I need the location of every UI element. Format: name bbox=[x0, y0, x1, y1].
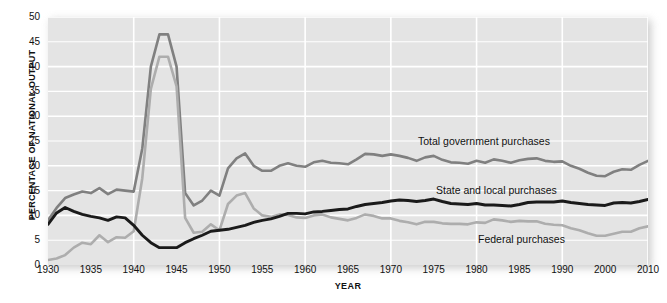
x-axis-tick-label: 1965 bbox=[326, 265, 370, 275]
plot-area bbox=[48, 17, 648, 265]
x-axis-tick-label: 1970 bbox=[369, 265, 413, 275]
series-annotation-label: Total government purchases bbox=[418, 135, 550, 147]
x-axis-tick-label: 1945 bbox=[155, 265, 199, 275]
y-axis-tick-label: 10 bbox=[12, 210, 40, 220]
y-axis-tick-label: 50 bbox=[12, 12, 40, 22]
x-axis-tick-label: 1940 bbox=[112, 265, 156, 275]
x-axis-tick-label: 1930 bbox=[26, 265, 70, 275]
x-axis-tick-label: 1955 bbox=[240, 265, 284, 275]
x-axis-tick-label: 2010 bbox=[626, 265, 667, 275]
y-axis-tick-label: 20 bbox=[12, 161, 40, 171]
x-axis-tick-label: 1960 bbox=[283, 265, 327, 275]
y-axis-tick-label: 15 bbox=[12, 186, 40, 196]
series-annotation-label: Federal purchases bbox=[478, 233, 565, 245]
y-axis-tick-label: 35 bbox=[12, 86, 40, 96]
x-axis-title: YEAR bbox=[48, 281, 648, 291]
y-axis-tick-label: 45 bbox=[12, 37, 40, 47]
y-axis-tick-label: 25 bbox=[12, 136, 40, 146]
series-annotation-label: State and local purchases bbox=[436, 184, 557, 196]
x-axis-tick-label: 1950 bbox=[197, 265, 241, 275]
x-axis-tick-label: 1975 bbox=[412, 265, 456, 275]
x-axis-tick-label: 1990 bbox=[540, 265, 584, 275]
x-axis-tick-label: 1935 bbox=[69, 265, 113, 275]
x-axis-tick-label: 1980 bbox=[455, 265, 499, 275]
y-axis-tick-label: 40 bbox=[12, 62, 40, 72]
x-axis-tick-label: 2000 bbox=[583, 265, 627, 275]
x-axis-tick-label: 1985 bbox=[497, 265, 541, 275]
chart-container: PERCENTAGE OF NATIONAL OUTPUT 0510152025… bbox=[0, 0, 667, 303]
y-axis-tick-label: 30 bbox=[12, 111, 40, 121]
plot-svg bbox=[48, 17, 648, 265]
y-axis-tick-label: 5 bbox=[12, 235, 40, 245]
